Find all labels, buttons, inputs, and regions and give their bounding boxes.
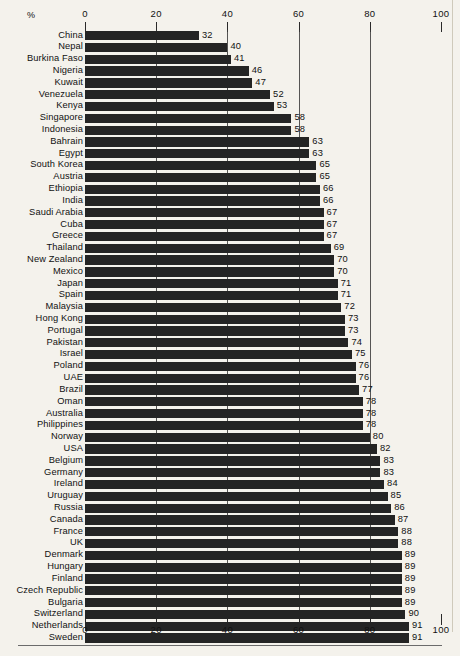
bar-value-label: 71 <box>341 289 352 301</box>
bar-row: UK88 <box>0 538 460 550</box>
bar-row: Hong Kong73 <box>0 314 460 326</box>
bar-value-label: 84 <box>387 478 398 490</box>
bar <box>85 114 291 123</box>
bar-row: Kenya53 <box>0 101 460 113</box>
category-label: Greece <box>52 230 83 242</box>
axis-tick-label: 100 <box>433 8 450 19</box>
bar-chart: % 020406080100 China32Nepal40Burkina Fas… <box>0 0 460 656</box>
category-label: Burkina Faso <box>27 53 83 65</box>
axis-tick-label: 0 <box>82 8 88 19</box>
category-label: Ireland <box>54 478 83 490</box>
bar-value-label: 66 <box>323 183 334 195</box>
bar-value-label: 76 <box>359 360 370 372</box>
category-label: Canada <box>50 514 83 526</box>
bar-value-label: 46 <box>252 65 263 77</box>
bar-row: Norway80 <box>0 432 460 444</box>
bar <box>85 515 395 524</box>
bar-value-label: 74 <box>351 337 362 349</box>
category-label: Nigeria <box>53 65 83 77</box>
axis-tick-label: 40 <box>222 624 233 635</box>
bar <box>85 55 231 64</box>
bar-row: USA82 <box>0 443 460 455</box>
bar-value-label: 89 <box>405 561 416 573</box>
bar <box>85 137 309 146</box>
footer-divider <box>18 645 442 646</box>
bar <box>85 539 398 548</box>
bar <box>85 232 324 241</box>
bar-value-label: 88 <box>401 537 412 549</box>
bar <box>85 350 352 359</box>
bar <box>85 492 388 501</box>
bar-value-label: 77 <box>362 384 373 396</box>
bar-row: Switzerland90 <box>0 609 460 621</box>
page-edge-rule <box>452 0 453 632</box>
category-label: Portugal <box>48 325 83 337</box>
axis-tick-label: 20 <box>151 8 162 19</box>
bar-row: Australia78 <box>0 408 460 420</box>
bar <box>85 551 402 560</box>
bar <box>85 43 227 52</box>
bar-value-label: 67 <box>327 219 338 231</box>
bar-value-label: 65 <box>319 159 330 171</box>
axis-tick-label: 60 <box>293 8 304 19</box>
bar-value-label: 67 <box>327 207 338 219</box>
bottom-axis: 020406080100 <box>0 624 460 638</box>
bar-row: Venezuela52 <box>0 89 460 101</box>
bar <box>85 563 402 572</box>
bar <box>85 468 380 477</box>
category-label: Indonesia <box>42 124 83 136</box>
bar-row: Singapore58 <box>0 113 460 125</box>
category-label: Cuba <box>60 219 83 231</box>
bar-row: Bulgaria89 <box>0 597 460 609</box>
bar <box>85 102 274 111</box>
bar <box>85 279 338 288</box>
bar <box>85 574 402 583</box>
bar <box>85 586 402 595</box>
bar-value-label: 69 <box>334 242 345 254</box>
bar <box>85 31 199 40</box>
bar <box>85 196 320 205</box>
bar-row: Egypt63 <box>0 148 460 160</box>
bar-row: Brazil77 <box>0 384 460 396</box>
bar-row: France88 <box>0 526 460 538</box>
bar-row: Ireland84 <box>0 479 460 491</box>
bar-value-label: 47 <box>255 77 266 89</box>
bar-value-label: 32 <box>202 30 213 42</box>
bar-row: Mexico70 <box>0 266 460 278</box>
category-label: Malaysia <box>46 301 83 313</box>
category-label: Germany <box>44 467 83 479</box>
bar <box>85 126 291 135</box>
bar <box>85 66 249 75</box>
bar-row: China32 <box>0 30 460 42</box>
bar-value-label: 58 <box>294 112 305 124</box>
bar <box>85 220 324 229</box>
bar-value-label: 70 <box>337 266 348 278</box>
category-label: Russia <box>54 502 83 514</box>
bar-value-label: 88 <box>401 526 412 538</box>
category-label: Denmark <box>45 549 83 561</box>
axis-tick-label: 80 <box>364 624 375 635</box>
bar-row: Malaysia72 <box>0 302 460 314</box>
bar-value-label: 89 <box>405 585 416 597</box>
bar-row: Japan71 <box>0 278 460 290</box>
bar-value-label: 85 <box>391 490 402 502</box>
category-label: Spain <box>59 289 83 301</box>
category-label: Norway <box>51 431 83 443</box>
category-label: Uruguay <box>47 490 83 502</box>
bar-row: Denmark89 <box>0 550 460 562</box>
bar-row: Belgium83 <box>0 455 460 467</box>
bar <box>85 90 270 99</box>
bar <box>85 444 377 453</box>
category-label: Brazil <box>59 384 83 396</box>
category-label: Philippines <box>37 419 83 431</box>
bar <box>85 397 363 406</box>
category-label: Egypt <box>59 148 83 160</box>
axis-tick-label: 80 <box>364 8 375 19</box>
category-label: Pakistan <box>47 337 83 349</box>
bar-row: Austria65 <box>0 172 460 184</box>
bar-value-label: 53 <box>277 100 288 112</box>
bar-row: Kuwait47 <box>0 77 460 89</box>
bar-row: Czech Republic89 <box>0 585 460 597</box>
bar <box>85 255 334 264</box>
bar <box>85 374 356 383</box>
